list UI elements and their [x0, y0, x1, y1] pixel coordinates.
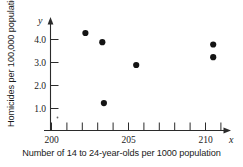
y-tick-label-1: 1.0 [34, 104, 46, 114]
y-axis-arrowhead [48, 17, 54, 25]
x-axis-variable-label: x [228, 134, 234, 145]
y-tick-label-2: 2.0 [34, 81, 46, 91]
x-axis-caption: Number of 14 to 24-year-olds per 1000 po… [0, 148, 243, 158]
y-axis-ticks [51, 40, 59, 109]
data-point [133, 62, 139, 68]
y-axis-tick-labels: 4.0 3.0 2.0 1.0 [34, 35, 46, 114]
data-point [99, 39, 105, 45]
x-tick-label-200: 200 [44, 135, 59, 145]
plot-canvas: y x 4.0 3.0 2.0 1.0 [0, 0, 243, 167]
scatter-plot-figure: y x 4.0 3.0 2.0 1.0 [0, 0, 243, 167]
data-point-series [82, 30, 216, 106]
x-tick-label-210: 210 [198, 135, 213, 145]
x-axis-ticks [52, 123, 221, 131]
x-axis-arrowhead [224, 128, 232, 134]
y-tick-label-4: 4.0 [34, 35, 46, 45]
origin-speck [57, 117, 59, 119]
data-point [210, 41, 216, 47]
y-axis-caption: Homicides per 100,000 population [6, 0, 16, 127]
x-axis-tick-labels: 200 205 210 [44, 135, 213, 145]
data-point [101, 100, 107, 106]
y-axis-variable-label: y [37, 15, 43, 26]
data-point [82, 30, 88, 36]
y-tick-label-3: 3.0 [34, 58, 46, 68]
data-point [210, 54, 216, 60]
x-tick-label-205: 205 [121, 135, 136, 145]
